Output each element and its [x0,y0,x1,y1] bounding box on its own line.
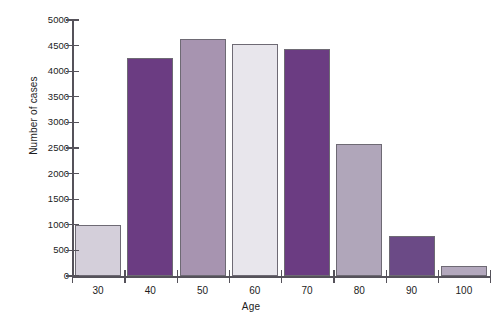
bar-50 [180,39,226,276]
x-axis-tick-label: 60 [228,285,282,296]
x-axis-tick-label: 70 [280,285,334,296]
x-axis-tick-mark [124,270,125,283]
bar-90 [389,236,435,276]
y-axis-tick-mark [66,224,79,225]
y-axis-tick-mark [66,199,79,200]
x-axis-tick-mark [229,270,230,283]
y-axis-tick-mark [66,250,79,251]
bar-30 [75,225,121,276]
y-axis-tick-mark [66,19,79,20]
x-axis-tick-mark [281,270,282,283]
bar-40 [127,58,173,276]
plot-area [72,20,490,276]
x-axis-title: Age [0,301,502,312]
x-axis-tick-mark [386,270,387,283]
bar-70 [284,49,330,276]
x-axis-tick-label: 80 [332,285,386,296]
x-axis-tick-label: 40 [123,285,177,296]
x-axis-tick-mark [490,270,491,283]
bar-chart: Number of cases 050010001500200025003000… [0,0,502,323]
y-axis-tick-mark [66,96,79,97]
x-axis-tick-label: 30 [71,285,125,296]
y-axis-tick-mark [66,147,79,148]
y-axis-tick-mark [66,122,79,123]
x-axis-tick-mark [72,270,73,283]
y-axis-tick-mark [66,71,79,72]
y-axis-tick-mark [66,173,79,174]
y-axis-tick-labels: 0500100015002000250030003500400045005000 [0,0,72,323]
x-axis-tick-label: 100 [437,285,491,296]
y-axis-tick-mark [66,45,79,46]
bar-60 [232,44,278,276]
x-axis-tick-mark [333,270,334,283]
x-axis-tick-mark [177,270,178,283]
x-axis-tick-label: 50 [176,285,230,296]
x-axis-tick-label: 90 [385,285,439,296]
x-axis-tick-mark [438,270,439,283]
bar-80 [336,144,382,276]
bar-100 [441,266,487,276]
